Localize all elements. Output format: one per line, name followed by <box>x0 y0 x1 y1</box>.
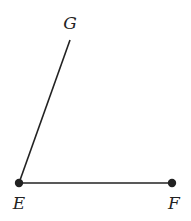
label-e: E <box>12 193 26 213</box>
point-f <box>168 179 176 187</box>
segment-eg <box>19 40 70 183</box>
label-g: G <box>63 13 77 33</box>
label-f: F <box>167 193 181 213</box>
diagram-svg: G E F <box>0 0 191 221</box>
angle-diagram: G E F <box>0 0 191 221</box>
point-e <box>15 179 23 187</box>
